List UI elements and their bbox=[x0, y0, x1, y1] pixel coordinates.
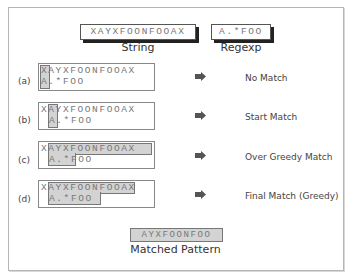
case-c-pattern: A.*FOO bbox=[49, 154, 93, 165]
case-c-result: Over Greedy Match bbox=[245, 152, 332, 162]
matched-pattern-box: AYXFOONFOO bbox=[130, 228, 223, 242]
case-a-box: XAYXFOONFOOAX A.*FOO bbox=[38, 63, 155, 91]
case-a-label: (a) bbox=[18, 76, 31, 86]
case-a-result: No Match bbox=[245, 73, 288, 83]
case-d-pattern: A.*FOO bbox=[49, 193, 93, 204]
regexp-caption: Regexp bbox=[211, 41, 271, 54]
case-c-label: (c) bbox=[18, 155, 30, 165]
arrow-right-icon bbox=[195, 111, 206, 120]
string-caption: String bbox=[80, 41, 196, 54]
case-d-string: XAYXFOONFOOAX bbox=[41, 182, 136, 193]
case-b-pattern: A.*FOO bbox=[49, 115, 93, 126]
case-d-label: (d) bbox=[18, 194, 31, 204]
regexp-box: A.*FOO bbox=[211, 24, 271, 40]
case-a-pattern: A.*FOO bbox=[41, 76, 85, 87]
arrow-right-icon bbox=[195, 190, 206, 199]
arrow-right-icon bbox=[195, 72, 206, 81]
string-box: XAYXFOONFOOAX bbox=[80, 24, 196, 40]
case-b-label: (b) bbox=[18, 115, 31, 125]
case-b-string: XAYXFOONFOOAX bbox=[41, 104, 136, 115]
case-d-result: Final Match (Greedy) bbox=[245, 191, 339, 201]
matched-pattern-caption: Matched Pattern bbox=[110, 243, 241, 256]
case-b-box: XAYXFOONFOOAX A.*FOO bbox=[38, 102, 155, 130]
case-d-box: XAYXFOONFOOAX A.*FOO bbox=[38, 180, 155, 208]
case-b-result: Start Match bbox=[245, 112, 297, 122]
case-a-string: XAYXFOONFOOAX bbox=[41, 65, 136, 76]
arrow-right-icon bbox=[195, 151, 206, 160]
case-c-box: XAYXFOONFOOAX A.*FOO bbox=[38, 141, 155, 169]
case-c-string: XAYXFOONFOOAX bbox=[41, 143, 136, 154]
